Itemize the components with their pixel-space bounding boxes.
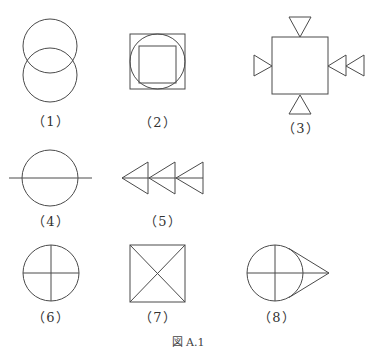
shape-3-square-with-triangles bbox=[254, 17, 364, 114]
label-2: （2） bbox=[139, 112, 176, 131]
figure-caption: 図 A.1 bbox=[172, 333, 205, 349]
shape-7-square-with-diagonals bbox=[130, 245, 185, 302]
label-1: （1） bbox=[32, 111, 69, 130]
shape-4-circle-with-line bbox=[9, 150, 92, 206]
label-7: （7） bbox=[139, 307, 176, 326]
label-3: （3） bbox=[282, 118, 319, 137]
shape-1-overlapping-circles bbox=[23, 19, 77, 102]
shape-5-three-triangles bbox=[122, 162, 203, 194]
label-6: （6） bbox=[32, 307, 69, 326]
shape-6-circle-with-cross bbox=[23, 245, 79, 301]
label-8: （8） bbox=[258, 307, 295, 326]
label-5: （5） bbox=[144, 211, 181, 230]
shape-8-circle-with-tangents bbox=[247, 245, 329, 301]
shape-2-square-circle-square bbox=[130, 34, 185, 89]
figure-canvas bbox=[0, 0, 375, 351]
label-4: （4） bbox=[32, 211, 69, 230]
